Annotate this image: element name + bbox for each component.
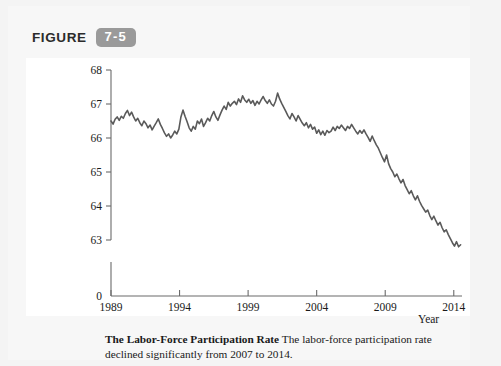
chart-panel: 6364656667680198919941999200420092014 [26, 58, 470, 316]
line-chart: 6364656667680198919941999200420092014 [26, 58, 470, 316]
page-background: FIGURE 7-5 Percent 636465666768019891994… [0, 0, 501, 366]
x-tick-label: 2014 [442, 301, 465, 313]
figure-label: FIGURE [32, 30, 87, 45]
y-tick-label: 64 [91, 200, 103, 212]
x-tick-label: 1989 [100, 301, 123, 313]
y-tick-label: 67 [91, 98, 103, 110]
y-tick-label: 63 [91, 234, 103, 246]
y-tick-label: 68 [91, 64, 103, 76]
figure-number-badge: 7-5 [96, 28, 136, 47]
figure-caption: The Labor-Force Participation Rate The l… [105, 332, 455, 362]
x-tick-label: 1994 [168, 301, 191, 313]
x-axis-title: Year [418, 313, 439, 325]
x-tick-label: 2009 [374, 301, 397, 313]
y-tick-label: 65 [91, 166, 103, 178]
figure-header: FIGURE 7-5 [32, 28, 136, 47]
caption-title: The Labor-Force Participation Rate [105, 333, 279, 345]
data-series-line [111, 93, 461, 247]
x-tick-label: 1999 [237, 301, 260, 313]
y-tick-label: 66 [91, 132, 103, 144]
x-tick-label: 2004 [305, 301, 328, 313]
